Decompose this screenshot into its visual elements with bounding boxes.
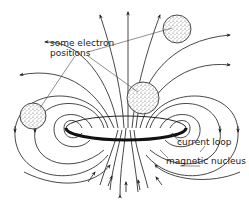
label-magnetic-nucleus: magnetic nucleus [166, 156, 246, 166]
label-electron-line1: some electron [50, 38, 114, 48]
electron-left [20, 103, 46, 129]
label-current-loop: current loop [177, 137, 232, 147]
electron-center [127, 82, 159, 114]
electron-top-right [163, 15, 191, 43]
label-electron-line2: positions [50, 48, 91, 58]
field-lines [15, 12, 240, 195]
magnetic-field-diagram: some electron positions current loop mag… [0, 0, 249, 200]
